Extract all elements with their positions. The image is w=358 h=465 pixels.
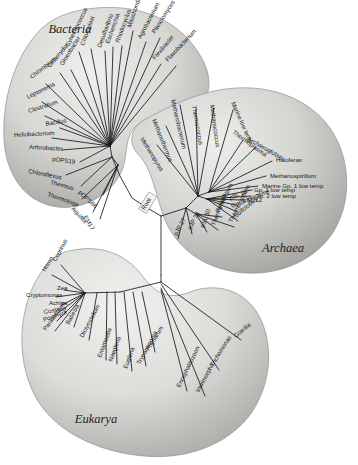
root-trunk bbox=[149, 209, 161, 216]
domain-label-eukarya: Eukarya bbox=[74, 412, 117, 426]
taxon-label: Haloferax bbox=[276, 156, 302, 163]
domain-label-archaea: Archaea bbox=[261, 241, 304, 255]
tree-svg: MitochondrionRhodocyclusEscherichiaDesul… bbox=[0, 0, 358, 465]
taxon-label: Zea bbox=[57, 284, 68, 291]
taxon-label: Cryptomonas bbox=[26, 291, 62, 298]
phylogenetic-tree-figure: MitochondrionRhodocyclusEscherichiaDesul… bbox=[0, 0, 358, 465]
taxon-label: Methanospirillum bbox=[270, 172, 316, 179]
domain-label-bacteria: Bacteria bbox=[48, 22, 91, 36]
root-label-group: Root bbox=[138, 192, 156, 214]
